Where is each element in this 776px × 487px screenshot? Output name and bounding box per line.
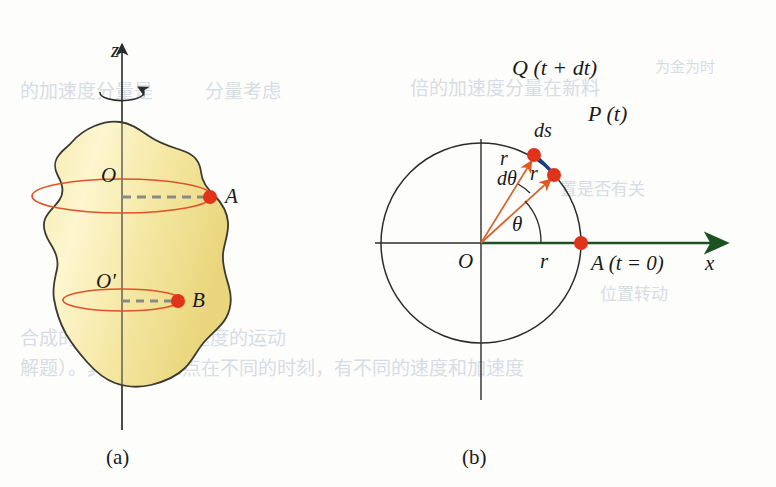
bleed-line: 分量考虑	[205, 80, 281, 102]
angle-arc-dtheta	[518, 184, 530, 193]
angle-arc-theta	[525, 201, 541, 243]
bleed-line: 置是否有关	[560, 179, 645, 199]
label-point-b: B	[192, 288, 205, 312]
bleed-line: 位置转动	[600, 284, 668, 304]
label-point-p: P (t)	[587, 101, 627, 126]
bleed-line: 的加速度分量是	[20, 80, 153, 102]
caption-figure-a: (a)	[106, 445, 129, 469]
figure-b-group: Q (t + dt) P (t) ds r r dθ θ O r A (t = …	[375, 55, 722, 469]
label-radius-p: r	[530, 162, 538, 184]
caption-figure-b: (b)	[462, 445, 487, 469]
label-point-o-prime: O'	[96, 269, 116, 293]
marker-point-a-start	[574, 236, 588, 250]
label-point-o: O	[101, 163, 116, 187]
label-arc-ds: ds	[534, 119, 552, 141]
marker-point-p	[547, 168, 561, 182]
label-center-o: O	[458, 249, 473, 273]
label-point-q: Q (t + dt)	[512, 55, 597, 80]
figure-a-group: z O O' A B (a)	[32, 38, 238, 469]
marker-point-a	[203, 190, 217, 204]
physics-figure-svg: 的加速度分量是 分量考虑 倍的加速度分量在新料 为金为时 合成的运动是均匀加速度…	[0, 0, 776, 487]
label-point-a: A	[223, 184, 238, 208]
x-axis-label: x	[704, 251, 715, 275]
marker-point-b	[171, 294, 185, 308]
label-radius-q: r	[500, 147, 508, 169]
label-radius-axis: r	[540, 249, 549, 273]
bleed-line: 倍的加速度分量在新料	[410, 77, 600, 99]
z-axis-label: z	[110, 38, 119, 62]
figure-page: 的加速度分量是 分量考虑 倍的加速度分量在新料 为金为时 合成的运动是均匀加速度…	[0, 0, 776, 487]
bleed-line: 为金为时	[655, 58, 715, 76]
marker-point-q	[527, 148, 541, 162]
label-angle-theta: θ	[512, 212, 522, 236]
label-angle-dtheta: dθ	[497, 167, 517, 189]
label-point-a-start: A (t = 0)	[589, 251, 664, 275]
